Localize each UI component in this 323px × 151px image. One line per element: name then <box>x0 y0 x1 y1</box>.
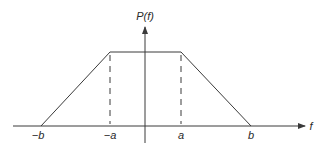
tick-label-b: b <box>248 129 254 141</box>
y-axis-label: P(f) <box>136 10 154 22</box>
x-axis-label: f <box>309 120 313 132</box>
trapezoid-spectrum-diagram: P(f) f −b −a a b <box>0 0 323 151</box>
tick-label-neg-a: −a <box>104 129 117 141</box>
tick-label-a: a <box>178 129 184 141</box>
tick-label-neg-b: −b <box>32 129 45 141</box>
trapezoid-curve <box>41 52 251 126</box>
